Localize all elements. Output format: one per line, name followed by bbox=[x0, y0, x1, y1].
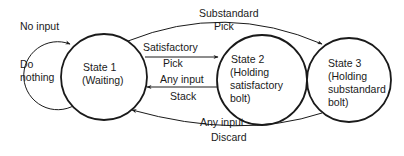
state-3-line-3: substandard bbox=[328, 83, 386, 95]
state-1-subtitle: (Waiting) bbox=[82, 74, 124, 86]
transition-any-input-discard: Any input Discard bbox=[132, 110, 322, 143]
transition-any-input-stack: Any input Stack bbox=[147, 73, 218, 102]
state-2-line-4: bolt) bbox=[230, 92, 250, 104]
transition-1-to-3-action: Pick bbox=[214, 20, 235, 32]
self-loop-action-line-1: Do bbox=[20, 58, 34, 70]
transition-2-to-1-condition: Any input bbox=[160, 73, 204, 85]
state-2-line-2: (Holding bbox=[230, 66, 269, 78]
transition-2-to-1-action: Stack bbox=[170, 90, 197, 102]
transition-1-to-2-action: Pick bbox=[163, 57, 184, 69]
state-3-node: State 3 (Holding substandard bolt) bbox=[307, 38, 391, 122]
state-diagram: No input Do nothing State 1 (Waiting) St… bbox=[0, 0, 404, 156]
state-1-title: State 1 bbox=[83, 61, 116, 73]
state-2-line-3: satisfactory bbox=[230, 79, 284, 91]
state-3-line-2: (Holding bbox=[328, 70, 367, 82]
transition-3-to-1-action: Discard bbox=[211, 131, 247, 143]
state-2-node: State 2 (Holding satisfactory bolt) bbox=[217, 35, 307, 125]
transition-1-to-2-condition: Satisfactory bbox=[143, 41, 199, 53]
self-loop-action-line-2: nothing bbox=[20, 71, 55, 83]
state-1-node: State 1 (Waiting) bbox=[61, 34, 147, 120]
transition-satisfactory-pick: Satisfactory Pick bbox=[143, 41, 218, 69]
state-2-line-1: State 2 bbox=[231, 53, 264, 65]
state-3-line-1: State 3 bbox=[328, 57, 361, 69]
transition-1-to-3-condition: Substandard bbox=[199, 7, 259, 19]
self-loop-condition: No input bbox=[20, 20, 59, 32]
transition-3-to-1-condition: Any input bbox=[200, 116, 244, 128]
state-3-line-4: bolt) bbox=[328, 96, 348, 108]
transition-substandard-pick: Substandard Pick bbox=[128, 7, 322, 44]
